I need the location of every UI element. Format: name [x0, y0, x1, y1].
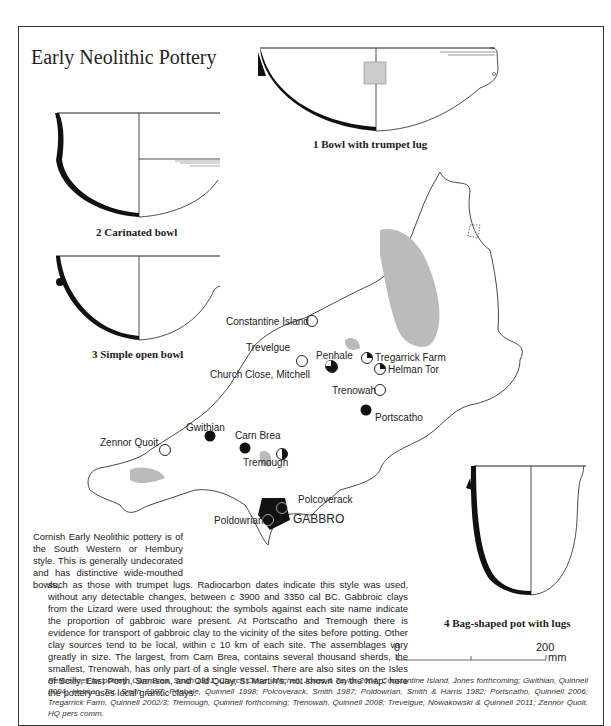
site-label-poldowrian: Poldowrian	[214, 515, 263, 526]
site-label-carn-brea: Carn Brea	[235, 430, 281, 441]
scale-unit-label: mm	[548, 651, 566, 663]
caption-vessel-3: 3 Simple open bowl	[92, 348, 183, 360]
site-label-gwithian: Gwithian	[186, 422, 225, 433]
site-label-zennor-quoit: Zennor Quoit	[100, 437, 159, 448]
vessel-4-bag-shaped-pot	[466, 466, 586, 595]
site-label-constantine-island: Constantine Island	[226, 316, 309, 327]
site-label-tremough: Tremough	[243, 457, 288, 468]
site-label-polcoverack: Polcoverack	[298, 494, 353, 505]
site-label-tregarrick-farm: Tregarrick Farm	[375, 352, 446, 363]
region-label-gabbro: GABBRO	[293, 512, 344, 526]
vessel-2-carinated-bowl	[55, 113, 220, 217]
site-label-helman-tor: Helman Tor	[388, 364, 440, 375]
vessel-3-simple-open-bowl	[56, 256, 220, 340]
caption-vessel-1: 1 Bowl with trumpet lug	[313, 138, 427, 150]
site-label-penhale: Penhale	[316, 350, 353, 361]
site-label-trenowah: Trenowah	[332, 385, 376, 396]
site-label-church-close-mitchell: Church Close, Mitchell	[210, 369, 310, 380]
site-label-portscatho: Portscatho	[375, 412, 423, 423]
site-label-trevelgue: Trevelgue	[246, 342, 291, 353]
vessel-1-bowl-trumpet-lug	[258, 48, 498, 131]
caption-vessel-2: 2 Carinated bowl	[96, 226, 177, 238]
caption-vessel-4: 4 Bag-shaped pot with lugs	[444, 617, 571, 629]
references: References for pottery: Carn Brea, Smith…	[48, 675, 588, 719]
scale-bar	[397, 655, 546, 660]
